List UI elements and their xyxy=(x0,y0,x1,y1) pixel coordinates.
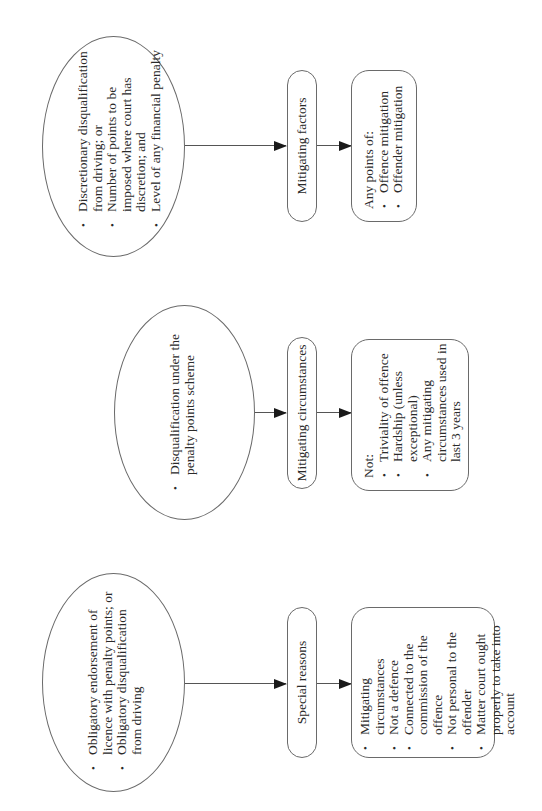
arrow-head-icon xyxy=(274,141,287,151)
bullet-item: Any mitigating circumstances used in las… xyxy=(420,342,464,478)
result-text-mitigating-circumstances: Not: Triviality of offence Hardship (unl… xyxy=(362,342,464,478)
arrow-head-icon xyxy=(274,679,287,689)
result-text-special-reasons: Mitigating circumstances Not a defence C… xyxy=(358,609,518,751)
pill-label: Mitigating circumstances xyxy=(294,345,310,482)
bullet-item: Discretionary disqualification from driv… xyxy=(76,38,105,228)
pill-label: Special reasons xyxy=(294,641,310,725)
label-pill-mitigating-circumstances: Mitigating circumstances xyxy=(287,337,317,489)
pill-label: Mitigating factors xyxy=(294,97,310,194)
source-text-penalty-points: Disqualification under the penalty point… xyxy=(168,311,197,491)
source-text-discretionary: Discretionary disqualification from driv… xyxy=(76,38,163,228)
bullet-item: Triviality of offence xyxy=(377,342,392,478)
bullet-item: Connected to the commission of the offen… xyxy=(402,609,446,751)
result-intro: Any points of: xyxy=(362,73,377,209)
bullet-item: Offender mitigation xyxy=(391,73,406,209)
bullet-item: Offence mitigation xyxy=(377,73,392,209)
bullet-item: Obligatory disqualification from driving xyxy=(115,581,144,771)
connector-line xyxy=(185,145,286,146)
bullet-item: Disqualification under the penalty point… xyxy=(168,311,197,491)
bullet-item: Hardship (unless exceptional) xyxy=(391,342,420,478)
bullet-item: Not a defence xyxy=(387,609,402,751)
bullet-item: Mitigating circumstances xyxy=(358,609,387,751)
result-text-mitigating-factors: Any points of: Offence mitigation Offend… xyxy=(362,73,406,209)
bullet-item: Obligatory endorsement of licence with p… xyxy=(86,581,115,771)
result-intro: Not: xyxy=(362,342,377,478)
label-pill-special-reasons: Special reasons xyxy=(287,607,317,758)
connector-line xyxy=(185,683,286,684)
label-pill-mitigating-factors: Mitigating factors xyxy=(287,70,317,222)
diagram-canvas: Discretionary disqualification from driv… xyxy=(0,0,542,811)
source-text-obligatory: Obligatory endorsement of licence with p… xyxy=(86,581,144,771)
bullet-item: Number of points to be imposed where cou… xyxy=(105,38,149,228)
arrow-head-icon xyxy=(274,408,287,418)
bullet-item: Not personal to the offender xyxy=(445,609,474,751)
bullet-item: Level of any financial penalty xyxy=(149,38,164,228)
bullet-item: Matter court ought properly to take into… xyxy=(474,609,518,751)
